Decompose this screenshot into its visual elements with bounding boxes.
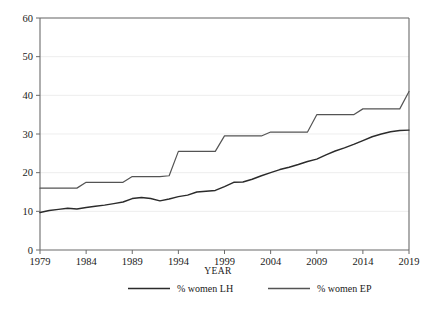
x-tick-label: 1994 (168, 256, 190, 267)
y-tick-label: 30 (23, 129, 34, 140)
x-tick-label: 2019 (399, 256, 420, 267)
x-tick-label: 1989 (122, 256, 143, 267)
x-tick-label: 1979 (30, 256, 51, 267)
chart-legend: % women LH% women EP (128, 283, 372, 294)
x-tick-label: 1984 (76, 256, 98, 267)
series-line-women-ep (40, 91, 409, 188)
y-tick-label: 40 (23, 90, 34, 101)
y-tick-label: 60 (23, 13, 34, 24)
x-axis-ticks-group: 197919841989199419992004200920142019 (30, 250, 420, 267)
y-axis-ticks-group: 0102030405060 (23, 13, 41, 256)
x-tick-label: 2004 (260, 256, 282, 267)
y-tick-label: 50 (23, 51, 34, 62)
legend-label: % women EP (317, 283, 372, 294)
line-chart: 0102030405060 19791984198919941999200420… (0, 0, 431, 311)
data-series-group (40, 91, 409, 212)
x-axis-title: YEAR (204, 266, 232, 276)
y-tick-label: 20 (23, 167, 34, 178)
x-tick-label: 2009 (306, 256, 327, 267)
y-tick-label: 0 (28, 245, 33, 256)
x-tick-label: 2014 (352, 256, 374, 267)
chart-figure: 0102030405060 19791984198919941999200420… (0, 0, 431, 311)
legend-label: % women LH (177, 283, 233, 294)
y-tick-label: 10 (23, 206, 34, 217)
series-line-women-lh (40, 130, 409, 212)
